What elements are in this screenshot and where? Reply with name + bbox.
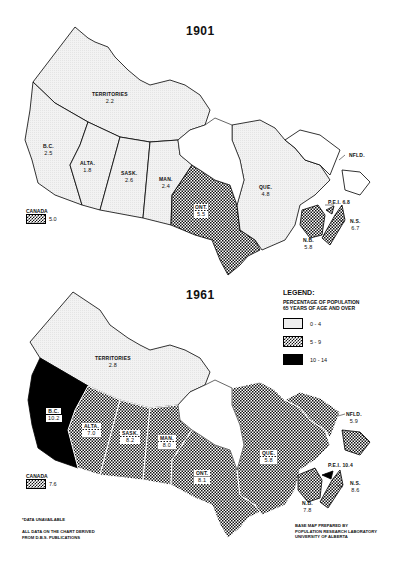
legend: LEGEND: PERCENTAGE OF POPULATION 65 YEAR… [283,290,359,365]
legend-swatch-solid [283,354,303,365]
legend-item-10-14: 10 - 14 [283,354,359,365]
map-1901: 1901 [0,0,395,290]
label-territories-1961: TERRITORIES2.8 [95,355,131,369]
canada-map-1901 [0,0,395,290]
label-bc-1961: B.C.10.2 [46,408,62,422]
legend-swatch-light [283,318,303,329]
label-nfld-1961: NFLD.5.9 [346,411,362,425]
region-pei [326,206,334,214]
legend-item-5-9: 5 - 9 [283,336,359,347]
region-nb [298,468,322,502]
legend-title: LEGEND: [283,290,359,296]
label-que-1901: QUE.4.8 [259,184,272,198]
canada-summary-1901: CANADA 5.0 [26,208,57,224]
label-ns-1961: N.S.8.6 [350,480,361,494]
region-newfoundland [342,170,370,195]
label-sask-1961: SASK.8.2 [120,430,140,444]
label-man-1961: MAN.8.0 [158,435,176,449]
legend-subtitle: 65 YEARS OF AGE AND OVER [283,305,359,311]
canada-swatch [26,214,46,224]
legend-item-0-4: 0 - 4 [283,318,359,329]
region-nb [300,205,325,238]
canada-summary-1961: CANADA 7.6 [26,473,57,489]
label-que-1961: QUE.5.8 [260,450,277,464]
label-alta-1901: ALTA.1.8 [80,160,95,174]
region-ns [322,205,345,245]
label-pei-1901: P.E.I. 6.8 [328,199,350,206]
note-source: ALL DATA ON THE CHART DERIVED FROM D.B.S… [22,529,95,540]
canada-value: 7.6 [49,481,57,487]
canada-swatch [26,479,46,489]
canada-value: 5.0 [49,216,57,222]
label-nfld-1901: NFLD. [349,152,365,159]
label-pei-1961: P.E.I. 10.4 [328,462,353,469]
region-pei [322,471,333,479]
map-1961: 1961 TERRITORIES2.8 B.C.1 [0,280,395,576]
label-man-1901: MAN.2.4 [159,176,173,190]
label-nb-1961: N.B.7.8 [302,500,313,514]
label-alta-1961: ALTA.7.0 [82,423,101,437]
label-ont-1901: ONT.5.5 [194,204,208,218]
label-territories-1901: TERRITORIES2.2 [92,91,128,105]
label-ont-1961: ONT.8.1 [194,470,210,484]
label-bc-1901: B.C.2.5 [43,143,54,157]
note-unavailable: *DATA UNAVAILABLE [22,517,65,523]
note-credit: BASE MAP PREPARED BY POPULATION RESEARCH… [295,523,377,540]
legend-swatch-checkered [283,336,303,347]
label-sask-1901: SASK.2.6 [121,170,137,184]
label-nb-1901: N.B.5.8 [303,237,314,251]
label-ns-1901: N.S.6.7 [350,218,361,232]
region-newfoundland [342,430,370,455]
